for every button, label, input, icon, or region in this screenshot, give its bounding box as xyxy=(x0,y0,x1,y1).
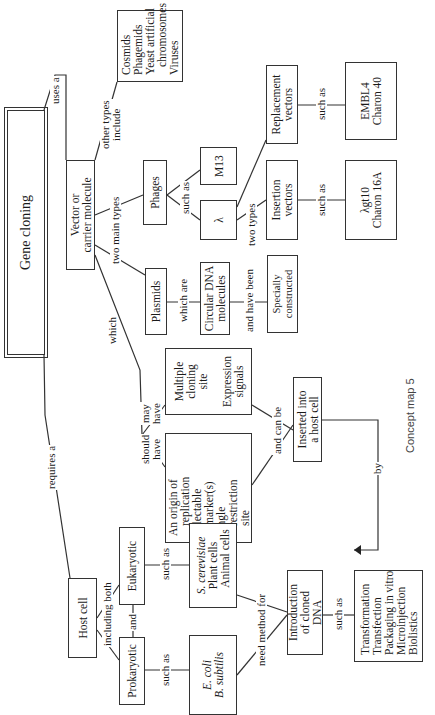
link-label-such-as-eukaryotic: such as xyxy=(160,547,171,581)
node-other-vectors: Cosmids Phagemids Yeast artificial chrom… xyxy=(117,10,183,82)
link-label-uses-a: uses a xyxy=(50,76,61,105)
node-prokaryotic: Prokaryotic xyxy=(119,637,145,705)
node-eukaryotic-examples: S. cerevisiae Plant cells Animal cells xyxy=(189,523,237,608)
node-eukaryotic: Eukaryotic xyxy=(119,527,145,605)
link-label-two-types: two types xyxy=(246,203,257,247)
link-label-need-method-for: need method for xyxy=(256,593,267,667)
node-host-cell: Host cell xyxy=(68,578,97,658)
node-gene-cloning: Gene cloning xyxy=(7,110,45,355)
node-phages: Phages xyxy=(143,160,167,225)
link-label-other-types: other types include xyxy=(100,99,122,150)
link-label-and: and xyxy=(127,613,138,631)
node-specially-constructed: Specially constructed xyxy=(267,255,298,333)
node-introduction: Introduction of cloned DNA xyxy=(287,570,323,655)
node-m13: M13 xyxy=(200,147,237,185)
concept-map: Gene cloning Vector or carrier molecule … xyxy=(0,0,435,715)
link-label-requires-a: requires a xyxy=(46,445,57,490)
link-label-such-as-introduction: such as xyxy=(333,597,344,631)
arrowhead-icon xyxy=(354,545,361,555)
link-label-and-have-been: and have been xyxy=(244,268,255,333)
link-label-including-both: including both xyxy=(102,581,113,647)
link-label-by: by xyxy=(372,462,383,475)
link-label-which-are: which are xyxy=(178,278,189,323)
node-may-have: Multiple cloning site Expression signals xyxy=(165,348,252,415)
link-label-which: which xyxy=(107,316,118,345)
link-label-and-can-be: and can be xyxy=(272,406,283,455)
node-circular-dna: Circular DNA molecules xyxy=(200,262,230,335)
link-label-may-have: may have xyxy=(140,402,162,425)
node-vector: Vector or carrier molecule xyxy=(66,160,95,270)
node-lambda: λ xyxy=(200,200,237,240)
node-plasmids: Plasmids xyxy=(145,268,167,335)
link-label-such-as-phages: such as xyxy=(180,181,191,215)
link-label-two-main-types: two main types xyxy=(110,196,121,265)
node-insertion-examples: λgt10 Charon 16A xyxy=(345,160,397,240)
node-replacement-examples: EMBL4 Charon 40 xyxy=(345,62,397,140)
link-label-such-as-insertion: such as xyxy=(316,183,327,217)
link-label-such-as-prokaryotic: such as xyxy=(160,653,171,687)
node-inserted: Inserted into a host cell xyxy=(293,377,322,462)
node-methods: Transformation Transfection Packaging in… xyxy=(354,570,423,662)
node-prokaryotic-examples: E. coli B. subtilis xyxy=(189,635,237,715)
node-replacement-vectors: Replacement vectors xyxy=(266,65,298,144)
node-insertion-vectors: Insertion vectors xyxy=(266,160,298,240)
figure-caption: Concept map 5 xyxy=(404,378,416,453)
link-label-should-have: should have xyxy=(140,434,162,465)
link-label-such-as-replacement: such as xyxy=(316,87,327,121)
